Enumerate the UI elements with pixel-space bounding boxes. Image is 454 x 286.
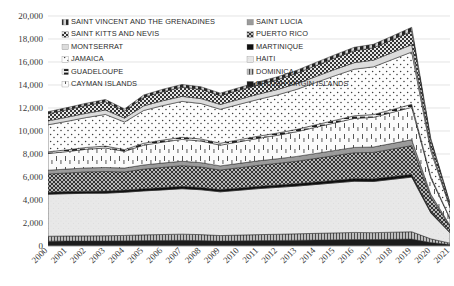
- legend-swatch: [247, 19, 253, 25]
- legend-label: CAYMAN ISLANDS: [71, 79, 137, 88]
- legend-label: HAITI: [256, 54, 275, 63]
- y-tick-label: 12,000: [18, 103, 43, 113]
- legend-swatch: [247, 81, 253, 87]
- y-tick-label: 14,000: [18, 80, 43, 90]
- legend-label: JAMAICA: [71, 54, 104, 63]
- legend-label: DOMINICA: [256, 67, 294, 76]
- legend-label: SAINT VINCENT AND THE GRENADINES: [71, 17, 215, 26]
- legend-swatch: [62, 81, 68, 87]
- legend-label: MONTSERRAT: [71, 42, 124, 51]
- legend-label: SAINT LUCIA: [256, 17, 303, 26]
- y-tick-label: 4,000: [23, 195, 44, 205]
- y-tick-label: 8,000: [23, 149, 44, 159]
- y-tick-label: 2,000: [23, 218, 44, 228]
- legend-label: SAINT KITTS AND NEVIS: [71, 29, 159, 38]
- legend-label: MARTINIQUE: [256, 42, 303, 51]
- chart-canvas: 02,0004,0006,0008,00010,00012,00014,0001…: [0, 0, 454, 286]
- legend-swatch: [247, 69, 253, 75]
- legend-label: BRITISH VIRGIN ISLANDS: [256, 79, 349, 88]
- y-tick-label: 20,000: [18, 11, 43, 21]
- legend-swatch: [247, 44, 253, 50]
- y-tick-label: 16,000: [18, 57, 43, 67]
- y-tick-label: 18,000: [18, 34, 43, 44]
- y-tick-label: 10,000: [18, 126, 43, 136]
- legend-swatch: [62, 19, 68, 25]
- legend-swatch: [62, 44, 68, 50]
- legend-label: PUERTO RICO: [256, 29, 308, 38]
- legend-swatch: [247, 57, 253, 63]
- legend-swatch: [62, 57, 68, 63]
- y-tick-label: 6,000: [23, 172, 44, 182]
- legend-swatch: [62, 32, 68, 38]
- legend-swatch: [62, 69, 68, 75]
- stacked-area-chart: 02,0004,0006,0008,00010,00012,00014,0001…: [0, 0, 454, 286]
- legend-label: GUADELOUPE: [71, 67, 123, 76]
- legend-swatch: [247, 32, 253, 38]
